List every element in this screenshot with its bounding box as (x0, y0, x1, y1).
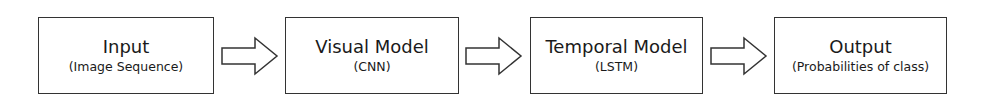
node-title: Output (829, 36, 892, 58)
node-title: Input (103, 36, 150, 58)
input-node: Input (Image Sequence) (38, 17, 214, 94)
visual-model-node: Visual Model (CNN) (285, 17, 459, 94)
output-node: Output (Probabilities of class) (774, 17, 947, 94)
node-subtitle: (CNN) (353, 59, 390, 75)
node-subtitle: (Image Sequence) (69, 59, 184, 75)
node-subtitle: (LSTM) (595, 59, 638, 75)
arrow-right-icon (221, 36, 279, 76)
node-title: Temporal Model (545, 36, 687, 58)
arrow-right-icon (465, 36, 523, 76)
node-subtitle: (Probabilities of class) (792, 59, 929, 75)
node-title: Visual Model (315, 36, 429, 58)
arrow-right-icon (710, 36, 768, 76)
temporal-model-node: Temporal Model (LSTM) (530, 17, 703, 94)
